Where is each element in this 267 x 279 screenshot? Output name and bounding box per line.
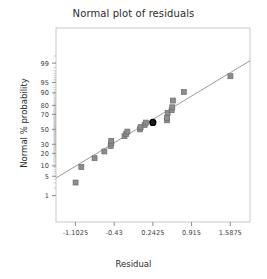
data-point <box>228 74 233 79</box>
data-point <box>165 115 170 120</box>
svg-text:-0.43: -0.43 <box>106 229 123 237</box>
data-point-highlighted <box>150 119 156 125</box>
svg-text:90: 90 <box>41 89 49 97</box>
data-point <box>143 120 148 125</box>
x-axis-ticks <box>75 222 230 226</box>
data-point <box>170 98 175 103</box>
svg-text:1.5875: 1.5875 <box>219 229 242 237</box>
svg-text:80: 80 <box>41 102 49 110</box>
svg-text:30: 30 <box>41 141 49 149</box>
data-point <box>170 105 175 110</box>
svg-text:-1.1025: -1.1025 <box>63 229 88 237</box>
svg-text:10: 10 <box>41 162 49 170</box>
svg-text:5: 5 <box>45 173 49 181</box>
data-point <box>181 89 186 94</box>
svg-text:99: 99 <box>41 60 49 68</box>
data-point <box>79 164 84 169</box>
svg-text:20: 20 <box>41 150 49 158</box>
normal-probability-plot: Normal plot of residuals Normal % probab… <box>0 0 267 279</box>
x-axis-tick-labels: -1.1025-0.430.24250.9151.5875 <box>63 229 242 237</box>
svg-text:95: 95 <box>41 79 49 87</box>
svg-text:70: 70 <box>41 111 49 119</box>
svg-text:50: 50 <box>41 126 49 134</box>
data-point <box>73 180 78 185</box>
data-point <box>92 156 97 161</box>
data-point <box>125 129 130 134</box>
svg-text:1: 1 <box>45 192 49 200</box>
data-point <box>102 149 107 154</box>
y-axis-tick-labels: 15102030507080909599 <box>41 60 49 201</box>
plot-canvas: 15102030507080909599 -1.1025-0.430.24250… <box>0 0 267 279</box>
data-point <box>109 138 114 143</box>
svg-text:0.2425: 0.2425 <box>141 229 164 237</box>
data-points <box>73 74 233 185</box>
svg-text:0.915: 0.915 <box>182 229 201 237</box>
